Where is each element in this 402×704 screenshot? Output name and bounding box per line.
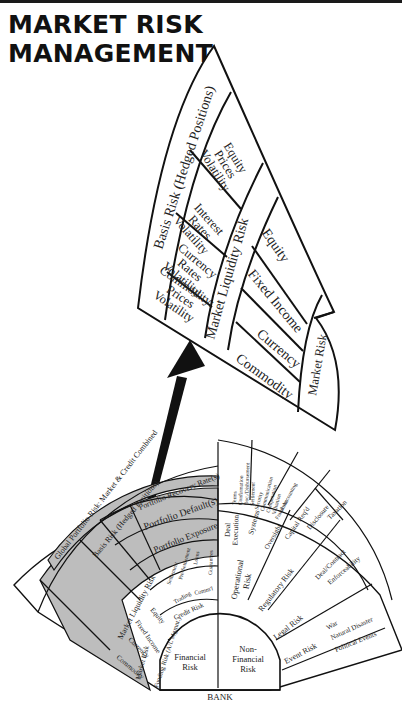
terms-confirmation-label: TermsConfirmationDoc./DisbursementSettle… xyxy=(231,462,256,506)
bank-label: BANK xyxy=(207,692,233,702)
risk-diagram: Basis Risk (Hedged Positions) EquityPric… xyxy=(0,0,402,704)
guarantees-label: Guarantees xyxy=(207,550,214,575)
